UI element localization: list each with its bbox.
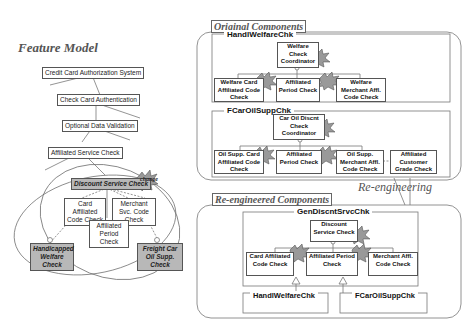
gen-title: GenDiscntSrvcChk [294,207,372,216]
gen-child-1: Card Affiliated Code Check [246,252,294,276]
feature-optional-validation: Optional Data Validation [62,120,138,132]
sub-handi: HandlWelfareChk [250,291,318,300]
feature-model-title: Feature Model [18,40,98,56]
feature-root: Credit Card Authorization System [42,67,144,79]
reengineered-components-label: Re-engineered Components [212,193,332,206]
fcar-child-1: Oil Supp. Card Affiliated Code Check [214,150,264,174]
handi-title: HandlWelfareChk [224,30,296,39]
reengineering-label: Re-engineering [358,180,432,195]
fcar-child-3: Oil Supp. Merchant Affl. Code Check [336,150,384,174]
fcar-coordinator: Car Oil Discnt Check Coordinator [273,114,325,140]
fcar-extra: Affiliated Customer Grade Check [390,150,437,174]
feature-freight: Freight Car Oil Supp. Check [137,243,183,271]
handi-child-1: Welfare Card Affiliated Code Check [214,78,264,102]
fcar-child-2: Affiliated Period Check [276,150,322,174]
feature-handicapped: Handicapped Welfare Check [30,243,74,271]
gen-child-3: Merchant Affl. Code Check [368,252,418,276]
feature-affiliated-service: Affiliated Service Check [48,147,123,159]
feature-affiliated-period: Affiliated Period Check [89,220,129,248]
feature-check-auth: Check Card Authentication [57,94,140,106]
gen-child-2: Affiliated Period Check [306,252,358,276]
change-label: change [140,176,158,182]
handi-coordinator: Welfare Check Coordinator [277,42,319,68]
sub-fcar: FCarOilSuppChk [352,291,418,300]
gen-coordinator: Discount Service Check [310,220,358,242]
handi-child-2: Affiliated Period Check [276,78,320,102]
handi-child-3: Welfare Merchant Affl. Code Check [336,78,386,102]
